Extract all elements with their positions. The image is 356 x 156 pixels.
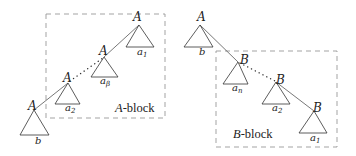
right-diagram: A b B an B a2 B a1 B-block (184, 10, 337, 147)
node-label: A (132, 10, 142, 24)
block-diagrams: A a1 A aβ A a2 A b A-block (0, 0, 356, 156)
b-block-label: B-block (233, 127, 273, 141)
tree-node-a2: A a2 (55, 71, 80, 115)
tree-node-an: B an (223, 53, 249, 95)
node-label: B (275, 73, 285, 87)
subtree-triangle (184, 25, 213, 47)
subtree-label: b (199, 46, 205, 57)
subtree-triangle (20, 110, 49, 135)
tree-node-b: A b (20, 99, 49, 146)
node-label: A (98, 44, 108, 58)
subtree-label: a1 (137, 46, 147, 59)
subtree-triangle (55, 83, 80, 104)
node-label: A (27, 99, 37, 113)
edge-top-to-an (200, 25, 238, 62)
node-label: A (196, 10, 206, 24)
dotted-edge-a2-to-abeta (70, 58, 103, 81)
tree-node-abeta: A aβ (91, 44, 118, 88)
subtree-label: a1 (310, 132, 320, 145)
node-label: B (312, 101, 322, 115)
left-diagram: A a1 A aβ A a2 A b A-block (20, 10, 165, 146)
tree-node-a1: A a1 (126, 10, 154, 59)
edge-bottom-to-a2 (34, 83, 68, 110)
node-label: A (62, 71, 72, 85)
node-label: B (239, 53, 249, 67)
subtree-triangle (126, 25, 154, 47)
tree-node-a2: B a2 (262, 73, 290, 115)
a-block-label: A-block (114, 101, 155, 115)
subtree-label: b (35, 135, 41, 146)
edge-abeta-to-top (104, 25, 139, 57)
tree-node-a1: B a1 (299, 101, 327, 145)
subtree-triangle (91, 57, 118, 77)
